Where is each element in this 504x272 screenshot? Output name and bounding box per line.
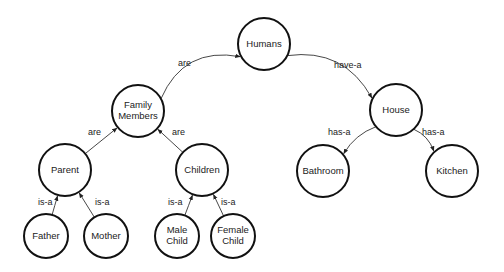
node-label: Father bbox=[32, 230, 59, 241]
node-family: FamilyMembers bbox=[112, 85, 164, 137]
node-father: Father bbox=[24, 214, 68, 258]
node-mother: Mother bbox=[84, 214, 128, 258]
node-kitchen: Kitchen bbox=[426, 145, 478, 197]
diagram-canvas: arehave-aarearehas-ahas-ais-ais-ais-ais-… bbox=[0, 0, 504, 272]
edge-father-to-parent: is-a bbox=[38, 196, 58, 215]
node-label: Child bbox=[166, 235, 188, 246]
edge-family-to-humans: are bbox=[161, 55, 240, 99]
node-label: Parent bbox=[51, 164, 79, 175]
node-label: Male bbox=[167, 224, 188, 235]
edge-label: have-a bbox=[334, 60, 362, 70]
edge-label: are bbox=[88, 127, 101, 137]
edge-label: is-a bbox=[168, 197, 183, 207]
node-label: Members bbox=[118, 110, 158, 121]
node-children: Children bbox=[176, 144, 228, 196]
arrow-icon bbox=[52, 196, 57, 215]
node-label: House bbox=[382, 104, 409, 115]
nodes-layer: HumansFamilyMembersHouseParentChildrenBa… bbox=[24, 18, 478, 258]
node-label: Child bbox=[222, 235, 244, 246]
node-label: Family bbox=[124, 99, 152, 110]
node-label: Female bbox=[217, 224, 249, 235]
edge-children-to-family: are bbox=[158, 127, 185, 152]
edge-humans-to-house: have-a bbox=[287, 55, 372, 98]
node-house: House bbox=[370, 84, 422, 136]
node-bathroom: Bathroom bbox=[297, 145, 349, 197]
arrow-icon bbox=[161, 55, 240, 99]
edges-layer: arehave-aarearehas-ahas-ais-ais-ais-ais-… bbox=[38, 55, 445, 218]
arrow-icon bbox=[185, 195, 193, 215]
node-male: MaleChild bbox=[155, 214, 199, 258]
node-label: Children bbox=[184, 164, 219, 175]
edge-female-to-children: is-a bbox=[213, 194, 235, 216]
edge-label: has-a bbox=[422, 127, 445, 137]
edge-parent-to-family: are bbox=[85, 127, 117, 154]
semantic-network-diagram: arehave-aarearehas-ahas-ais-ais-ais-ais-… bbox=[0, 0, 504, 272]
node-label: Kitchen bbox=[436, 165, 468, 176]
edge-label: is-a bbox=[38, 197, 53, 207]
arrow-icon bbox=[79, 193, 94, 217]
node-humans: Humans bbox=[238, 18, 290, 70]
node-label: Humans bbox=[246, 38, 282, 49]
edge-label: has-a bbox=[328, 127, 351, 137]
edge-label: is-a bbox=[95, 197, 110, 207]
node-female: FemaleChild bbox=[211, 214, 255, 258]
node-label: Bathroom bbox=[302, 165, 343, 176]
node-parent: Parent bbox=[39, 144, 91, 196]
edge-label: is-a bbox=[221, 197, 236, 207]
edge-male-to-children: is-a bbox=[168, 195, 192, 215]
edge-label: are bbox=[172, 127, 185, 137]
edge-label: are bbox=[178, 58, 191, 68]
node-label: Mother bbox=[91, 230, 121, 241]
